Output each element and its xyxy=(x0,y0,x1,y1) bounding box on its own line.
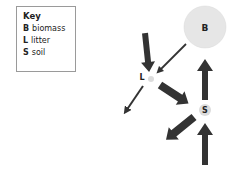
arrow-biomass-to-litter xyxy=(159,44,186,71)
biomass-node-label: B xyxy=(202,23,209,33)
arrow-input-to-litter xyxy=(138,32,156,72)
arrow-soil-to-output xyxy=(161,111,199,146)
arrow-soil-to-biomass xyxy=(197,59,213,100)
soil-node: S xyxy=(199,104,211,116)
arrow-litter-to-output xyxy=(126,86,143,111)
arrow-input-to-soil xyxy=(197,123,213,165)
arrow-litter-to-soil xyxy=(156,78,193,110)
soil-node-label: S xyxy=(202,106,208,115)
litter-node-label: L xyxy=(139,73,144,82)
biomass-node: B xyxy=(184,6,226,48)
nutrient-cycle-diagram: B L S xyxy=(0,0,234,172)
litter-node: L xyxy=(139,73,154,82)
